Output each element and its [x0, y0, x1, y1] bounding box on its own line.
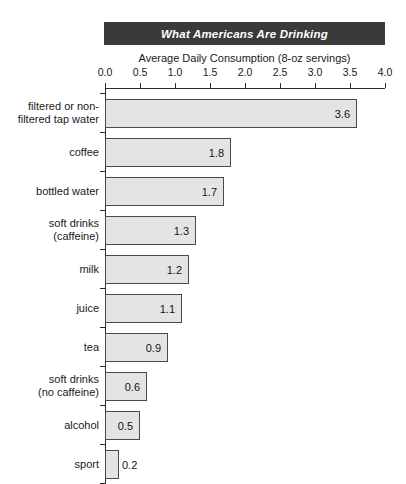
y-axis-tick: [100, 132, 105, 133]
x-axis-tick: [140, 83, 141, 88]
x-axis-tick: [245, 83, 246, 88]
chart-subtitle: Average Daily Consumption (8-oz servings…: [104, 52, 385, 64]
bar[interactable]: 1.2: [105, 255, 189, 284]
bar[interactable]: 0.2: [105, 450, 119, 479]
category-label: sport: [5, 458, 99, 471]
category-label-line: filtered tap water: [5, 113, 99, 126]
category-label: coffee: [5, 146, 99, 159]
category-label-line: sport: [5, 458, 99, 471]
chart-title-banner: What Americans Are Drinking: [104, 22, 385, 45]
bar-row[interactable]: 0.5: [105, 411, 385, 440]
x-axis-tick-label: 0.5: [133, 66, 148, 78]
bar-row[interactable]: 1.2: [105, 255, 385, 284]
bar-value-label: 0.5: [118, 412, 133, 441]
bar[interactable]: 0.6: [105, 372, 147, 401]
x-axis-tick: [280, 83, 281, 88]
x-axis-tick: [350, 83, 351, 88]
y-axis-tick: [100, 210, 105, 211]
category-label: filtered or non-filtered tap water: [5, 100, 99, 126]
bar[interactable]: 1.8: [105, 138, 231, 167]
category-label-line: milk: [5, 263, 99, 276]
y-axis-tick: [100, 93, 105, 94]
bar-value-label: 1.2: [167, 256, 182, 285]
chart-title: What Americans Are Drinking: [161, 28, 328, 40]
y-axis-tick: [100, 327, 105, 328]
category-label-line: filtered or non-: [5, 100, 99, 113]
bar-row[interactable]: 1.7: [105, 177, 385, 206]
bar-row[interactable]: 0.9: [105, 333, 385, 362]
category-label: bottled water: [5, 185, 99, 198]
bar-row[interactable]: 1.8: [105, 138, 385, 167]
y-axis-tick: [100, 405, 105, 406]
category-label-line: soft drinks: [5, 373, 99, 386]
category-label-line: coffee: [5, 146, 99, 159]
x-axis-tick: [315, 83, 316, 88]
x-axis-tick-label: 3.5: [343, 66, 358, 78]
x-axis-tick-label: 1.5: [203, 66, 218, 78]
y-axis-tick: [100, 249, 105, 250]
bar-row[interactable]: 1.1: [105, 294, 385, 323]
category-label: juice: [5, 302, 99, 315]
x-axis-tick: [210, 83, 211, 88]
category-label: soft drinks(no caffeine): [5, 373, 99, 399]
x-axis-tick-label: 0.0: [98, 66, 113, 78]
category-label: milk: [5, 263, 99, 276]
bar-row[interactable]: 3.6: [105, 99, 385, 128]
bar-row[interactable]: 0.2: [105, 450, 385, 479]
x-axis-tick: [175, 83, 176, 88]
x-axis-tick-label: 4.0: [378, 66, 393, 78]
y-axis-tick: [100, 171, 105, 172]
bar[interactable]: 0.9: [105, 333, 168, 362]
category-label-line: soft drinks: [5, 217, 99, 230]
category-label-line: (caffeine): [5, 230, 99, 243]
bar[interactable]: 3.6: [105, 99, 357, 128]
category-label: soft drinks(caffeine): [5, 217, 99, 243]
plot-area: 0.00.51.01.52.02.53.03.54.03.61.81.71.31…: [105, 88, 385, 428]
category-label-line: (no caffeine): [5, 386, 99, 399]
y-axis-tick: [100, 444, 105, 445]
x-axis-tick: [105, 83, 106, 88]
category-label: alcohol: [5, 419, 99, 432]
bar-value-label: 0.9: [146, 334, 161, 363]
category-label-line: alcohol: [5, 419, 99, 432]
x-axis-tick: [385, 83, 386, 88]
x-axis-tick-label: 2.5: [273, 66, 288, 78]
bar-value-label: 1.8: [209, 139, 224, 168]
category-label-line: bottled water: [5, 185, 99, 198]
bar-row[interactable]: 0.6: [105, 372, 385, 401]
bar-value-label: 0.6: [125, 373, 140, 402]
bar-value-label: 1.1: [160, 295, 175, 324]
x-axis-tick-label: 3.0: [308, 66, 323, 78]
bar-value-label: 0.2: [122, 451, 137, 480]
x-axis-tick-label: 1.0: [168, 66, 183, 78]
category-label-line: juice: [5, 302, 99, 315]
bar-row[interactable]: 1.3: [105, 216, 385, 245]
x-axis-tick-label: 2.0: [238, 66, 253, 78]
category-label: tea: [5, 341, 99, 354]
x-axis-line: [105, 88, 385, 89]
bar-value-label: 3.6: [335, 100, 350, 129]
bar-value-label: 1.3: [174, 217, 189, 246]
bar[interactable]: 1.7: [105, 177, 224, 206]
y-axis-tick: [100, 288, 105, 289]
bar[interactable]: 0.5: [105, 411, 140, 440]
y-axis-tick: [100, 366, 105, 367]
bar-value-label: 1.7: [202, 178, 217, 207]
bar[interactable]: 1.3: [105, 216, 196, 245]
category-label-line: tea: [5, 341, 99, 354]
bar[interactable]: 1.1: [105, 294, 182, 323]
